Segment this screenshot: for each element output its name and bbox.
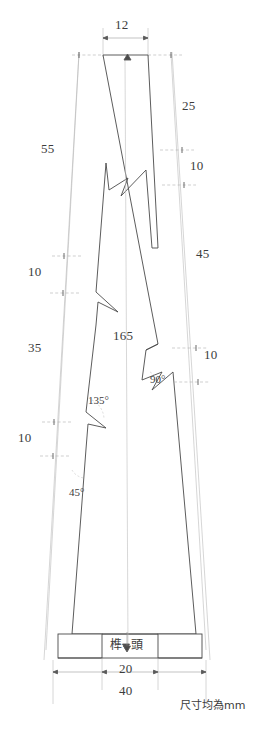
angle-label-45: 45° (69, 487, 84, 498)
dimension-label-right-45: 45 (196, 247, 209, 260)
angle-label-90: 90° (150, 374, 165, 385)
dimension-label-right-10-upper: 10 (190, 159, 203, 172)
dimension-label-left-35: 35 (28, 341, 41, 354)
dimension-label-left-55: 55 (41, 142, 54, 155)
part-label-leader (124, 632, 131, 652)
tenon-block-left (58, 634, 102, 658)
dimension-label-right-10-lower: 10 (204, 348, 217, 361)
dimension-label-bottom-inner: 20 (119, 662, 132, 675)
dimension-label-center-height: 165 (113, 329, 133, 342)
units-note: 尺寸均為mm (180, 700, 245, 711)
dimension-label-right-25: 25 (182, 99, 195, 112)
drawing-svg (0, 0, 261, 735)
part-label-tenon-left-char: 榫 (110, 639, 122, 651)
dimension-label-left-10-upper: 10 (28, 265, 41, 278)
dimension-label-bottom-outer: 40 (119, 684, 132, 697)
technical-drawing-canvas: 12 55 10 35 10 25 10 45 10 165 135° 45° … (0, 0, 261, 735)
part-label-tenon-right-char: 頭 (131, 639, 143, 651)
dimension-label-top-width: 12 (115, 18, 128, 31)
angle-label-135: 135° (88, 395, 109, 406)
dimension-label-left-10-lower: 10 (18, 431, 31, 444)
dimension-top-width (103, 28, 148, 57)
tenon-block-right (158, 634, 202, 658)
